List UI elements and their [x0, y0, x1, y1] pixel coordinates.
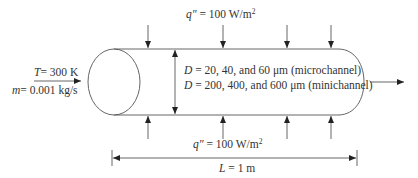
microchannel-diameter-label: D = 20, 40, and 60 μm (microchannel): [184, 65, 361, 77]
massflow-value: = 0.001 kg/s: [20, 84, 77, 96]
heat-flux-symbol: q″: [193, 138, 204, 150]
length-value: = 1 m: [225, 162, 255, 174]
heat-flux-exponent: 2: [252, 7, 256, 16]
heat-flux-arrows-top: [148, 25, 331, 48]
heat-flux-value: = 100 W/m: [204, 138, 259, 150]
minichannel-diameter-value: = 200, 400, and 600 μm (minichannel): [192, 79, 372, 91]
temperature-value: = 300 K: [40, 66, 78, 78]
inlet-massflow-label: m= 0.001 kg/s: [12, 85, 78, 97]
heat-flux-bottom-label: q″ = 100 W/m2: [193, 139, 262, 151]
heat-flux-arrows-bottom: [148, 116, 331, 139]
heat-flux-top-label: q″ = 100 W/m2: [186, 9, 255, 21]
heat-flux-value: = 100 W/m: [197, 8, 252, 20]
microchannel-diameter-value: = 20, 40, and 60 μm (microchannel): [192, 64, 361, 76]
pipe-inlet-cross-section: [88, 49, 140, 115]
minichannel-diameter-label: D = 200, 400, and 600 μm (minichannel): [184, 80, 373, 92]
heat-flux-symbol: q″: [186, 8, 197, 20]
inlet-temperature-label: T= 300 K: [34, 67, 78, 79]
heat-flux-exponent: 2: [259, 137, 263, 146]
length-label: L = 1 m: [219, 163, 255, 175]
